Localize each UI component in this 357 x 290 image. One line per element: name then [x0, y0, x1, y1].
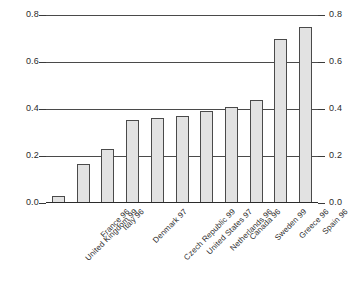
bar-slot — [46, 15, 71, 203]
y-axis-tick-mark-left — [39, 203, 46, 204]
bar-slot — [194, 15, 219, 203]
y-axis-tick-mark-left — [39, 109, 46, 110]
bar[interactable] — [176, 116, 189, 203]
bar[interactable] — [101, 149, 114, 203]
x-axis-tick-label: Denmark 97 — [151, 207, 189, 245]
y-axis-tick-label-left: 0.6 — [26, 57, 39, 66]
y-axis-tick-mark-left — [39, 156, 46, 157]
bar[interactable] — [250, 100, 263, 203]
y-axis-tick-label-left: 0.4 — [26, 104, 39, 113]
y-axis-tick-label-right: 0.8 — [329, 10, 342, 19]
plot-area — [46, 15, 318, 203]
bar-slot — [120, 15, 145, 203]
y-axis-tick-label-right: 0.2 — [329, 151, 342, 160]
bar-slot — [269, 15, 294, 203]
y-axis-tick-mark-right — [318, 203, 325, 204]
bar-slot — [71, 15, 96, 203]
bar-slot — [95, 15, 120, 203]
bar-slot — [170, 15, 195, 203]
y-axis-tick-label-left: 0.2 — [26, 151, 39, 160]
bar-slot — [244, 15, 269, 203]
y-axis-tick-mark-left — [39, 15, 46, 16]
bar[interactable] — [274, 39, 287, 204]
y-axis-tick-label-right: 0.4 — [329, 104, 342, 113]
y-axis-tick-mark-left — [39, 62, 46, 63]
y-axis-tick-label-right: 0.6 — [329, 57, 342, 66]
y-axis-tick-mark-right — [318, 62, 325, 63]
y-axis-tick-mark-right — [318, 15, 325, 16]
bar-slot — [293, 15, 318, 203]
x-axis-category-labels: United Kingdom 99France 96Italy 96Denmar… — [46, 204, 318, 290]
bar[interactable] — [200, 111, 213, 203]
y-axis-tick-label-right: 0.0 — [329, 198, 342, 207]
y-axis-tick-mark-right — [318, 156, 325, 157]
y-axis-tick-label-left: 0.8 — [26, 10, 39, 19]
x-axis-baseline — [46, 202, 318, 203]
y-axis-tick-mark-right — [318, 109, 325, 110]
bar-slot — [145, 15, 170, 203]
bar[interactable] — [225, 107, 238, 203]
bar[interactable] — [126, 120, 139, 203]
bar[interactable] — [299, 27, 312, 203]
bar-chart: 0.00.20.40.60.8 0.00.20.40.60.8 United K… — [0, 0, 357, 290]
bar[interactable] — [151, 118, 164, 203]
y-axis-tick-label-left: 0.0 — [26, 198, 39, 207]
bar-slot — [219, 15, 244, 203]
bar[interactable] — [77, 164, 90, 203]
bar-series — [46, 15, 318, 203]
